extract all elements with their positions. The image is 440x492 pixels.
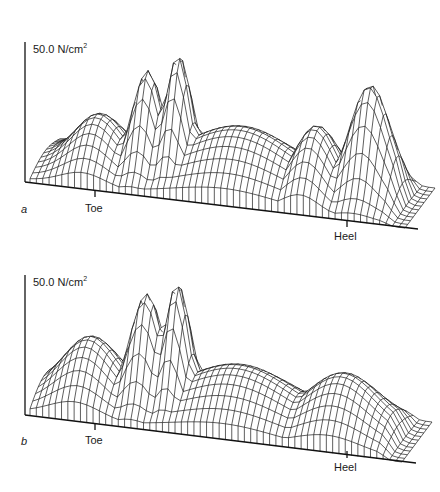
heel-label: Heel xyxy=(334,461,357,473)
chart-panel-b: 50.0 N/cm2 Toe Heel b xyxy=(0,246,440,492)
pressure-surface-a xyxy=(0,0,440,246)
panel-letter: b xyxy=(21,435,27,447)
chart-panel-a: 50.0 N/cm2 Toe Heel a xyxy=(0,0,440,246)
scale-label: 50.0 N/cm2 xyxy=(33,275,87,288)
toe-label: Toe xyxy=(85,434,103,446)
toe-label: Toe xyxy=(85,202,103,214)
heel-label: Heel xyxy=(334,230,357,242)
panel-letter: a xyxy=(21,203,27,215)
scale-label: 50.0 N/cm2 xyxy=(33,42,87,55)
